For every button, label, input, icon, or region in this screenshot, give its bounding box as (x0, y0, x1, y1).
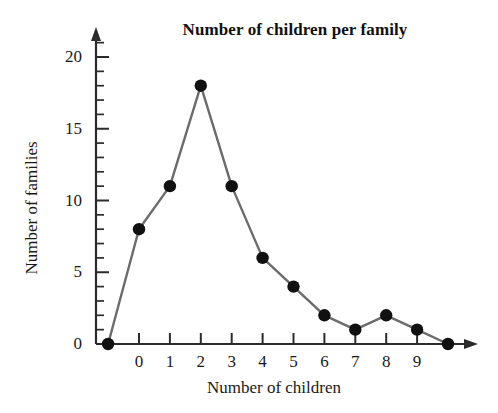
x-tick-label: 1 (160, 353, 180, 370)
y-tick-label: 20 (48, 48, 82, 65)
data-point-marker (102, 338, 114, 350)
y-tick-label: 5 (48, 263, 82, 280)
data-point-marker (226, 180, 238, 192)
data-point-marker (164, 180, 176, 192)
chart-figure: Number of children per family Number of … (0, 0, 498, 413)
x-tick-label: 5 (284, 353, 304, 370)
data-point-marker (411, 323, 423, 335)
y-tick-label: 15 (48, 120, 82, 137)
series-polyline (108, 86, 448, 344)
data-point-marker (133, 223, 145, 235)
data-point-markers (102, 80, 454, 351)
x-tick-label: 7 (345, 353, 365, 370)
x-tick-label: 8 (376, 353, 396, 370)
data-point-marker (442, 338, 454, 350)
data-point-marker (256, 252, 268, 264)
data-point-marker (380, 309, 392, 321)
x-tick-label: 3 (222, 353, 242, 370)
data-point-marker (195, 80, 207, 92)
x-tick-label: 4 (253, 353, 273, 370)
x-tick-label: 9 (407, 353, 427, 370)
axes-group (91, 27, 478, 349)
y-tick-label: 0 (48, 335, 82, 352)
x-tick-label: 6 (314, 353, 334, 370)
tick-marks-group (96, 43, 417, 344)
data-point-marker (287, 280, 299, 292)
x-tick-label: 2 (191, 353, 211, 370)
y-tick-label: 10 (48, 192, 82, 209)
y-axis-arrow (91, 27, 101, 41)
data-point-marker (349, 323, 361, 335)
x-tick-label: 0 (129, 353, 149, 370)
x-axis-arrow (464, 339, 478, 349)
data-series-line (108, 86, 448, 344)
data-point-marker (318, 309, 330, 321)
